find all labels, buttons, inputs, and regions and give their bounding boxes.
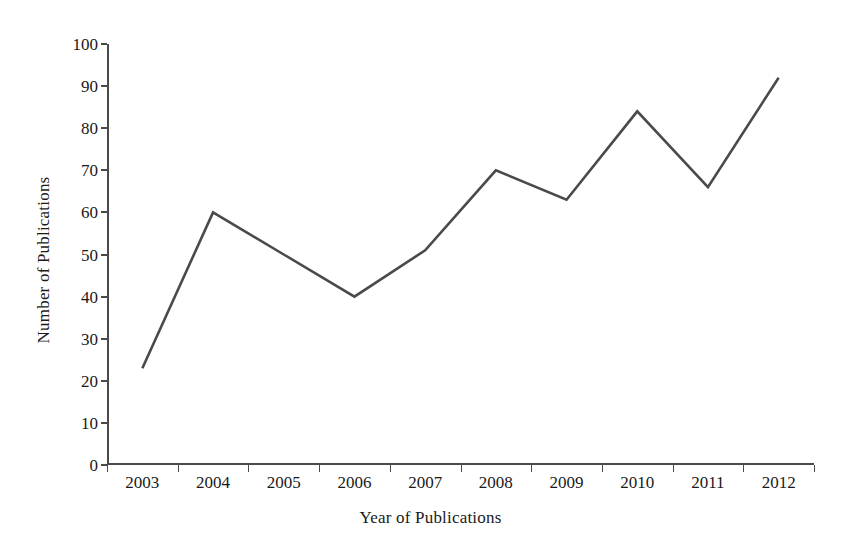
x-tick-mark	[814, 465, 815, 472]
y-tick-label: 60	[81, 204, 98, 221]
x-axis-title: Year of Publications	[0, 508, 861, 528]
x-tick-label-2005: 2005	[267, 473, 301, 493]
plot-area: 0102030405060708090100 20032004200520062…	[107, 44, 814, 465]
x-tick-label-2004: 2004	[196, 473, 230, 493]
series-line-publications	[107, 44, 814, 465]
y-tick-label: 0	[90, 457, 99, 474]
y-tick-label: 50	[81, 246, 98, 263]
y-tick-label: 80	[81, 120, 98, 137]
x-tick-mark	[107, 465, 108, 472]
y-axis-title: Number of Publications	[30, 40, 58, 480]
x-tick-mark	[531, 465, 532, 472]
y-tick-label: 90	[81, 78, 98, 95]
x-tick-label-2007: 2007	[408, 473, 442, 493]
line-chart: Number of Publications 01020304050607080…	[0, 0, 861, 545]
x-tick-mark	[319, 465, 320, 472]
x-tick-label-2008: 2008	[479, 473, 513, 493]
y-tick-label: 40	[81, 288, 98, 305]
y-tick-label: 20	[81, 372, 98, 389]
y-tick-label: 30	[81, 330, 98, 347]
x-tick-mark	[743, 465, 744, 472]
y-tick-label: 70	[81, 162, 98, 179]
x-tick-mark	[602, 465, 603, 472]
x-tick-mark	[390, 465, 391, 472]
x-tick-label-2003: 2003	[125, 473, 159, 493]
x-tick-label-2006: 2006	[337, 473, 371, 493]
x-tick-mark	[178, 465, 179, 472]
x-tick-label-2011: 2011	[691, 473, 724, 493]
y-tick-label: 10	[81, 414, 98, 431]
x-tick-mark	[673, 465, 674, 472]
x-tick-mark	[461, 465, 462, 472]
x-tick-mark	[248, 465, 249, 472]
x-tick-label-2012: 2012	[762, 473, 796, 493]
y-tick-label: 100	[73, 36, 99, 53]
x-tick-label-2010: 2010	[620, 473, 654, 493]
x-tick-label-2009: 2009	[550, 473, 584, 493]
